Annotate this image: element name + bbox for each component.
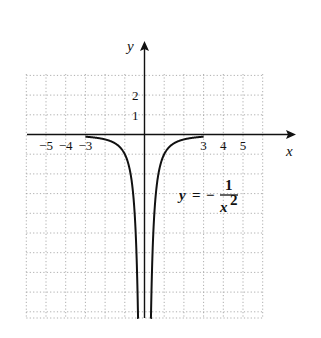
svg-text:=: =: [192, 187, 201, 203]
svg-text:x: x: [219, 199, 228, 215]
svg-text:5: 5: [240, 138, 247, 153]
svg-text:−4: −4: [59, 138, 73, 153]
svg-text:1: 1: [225, 177, 233, 193]
svg-text:−: −: [206, 187, 215, 203]
svg-text:y: y: [177, 187, 186, 203]
svg-text:−5: −5: [39, 138, 53, 153]
svg-text:−3: −3: [78, 138, 92, 153]
x-axis-label: x: [285, 143, 293, 159]
svg-text:2: 2: [230, 192, 238, 208]
svg-text:2: 2: [132, 88, 139, 103]
tick-labels: −5−4−334512: [39, 88, 246, 152]
function-graph: x y −5−4−334512 y = − 1 x 2: [0, 0, 321, 338]
y-axis-label: y: [125, 38, 134, 54]
svg-text:1: 1: [132, 108, 139, 123]
svg-text:3: 3: [200, 138, 207, 153]
svg-text:4: 4: [220, 138, 227, 153]
equation-label: y = − 1 x 2: [177, 177, 238, 215]
